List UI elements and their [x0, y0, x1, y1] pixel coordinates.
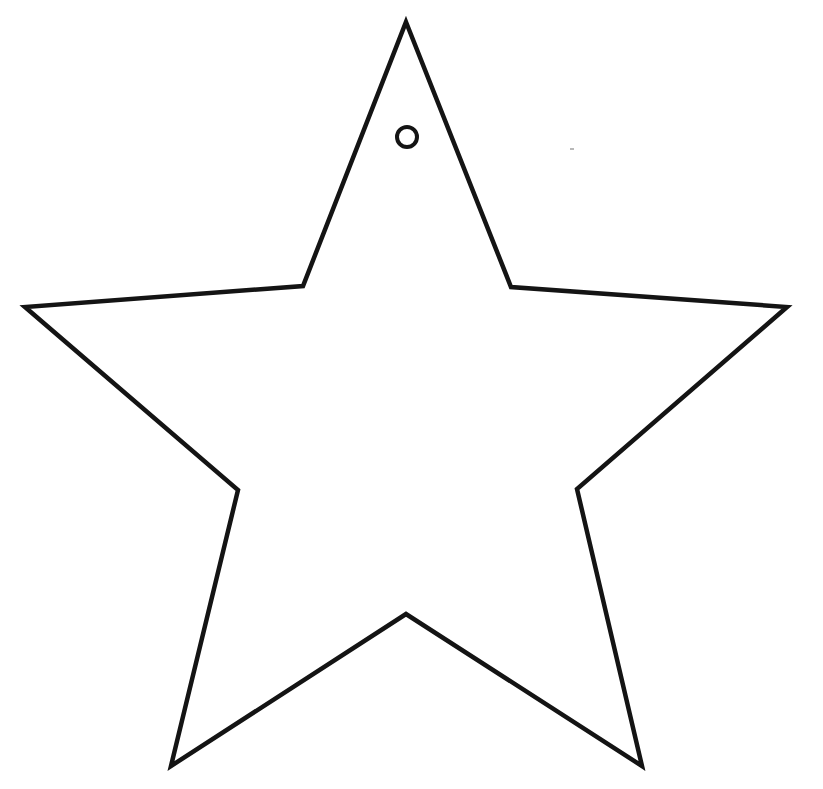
- paper-speck: [570, 148, 574, 150]
- star-drawing: [0, 0, 823, 789]
- hanging-hole-icon: [397, 127, 417, 147]
- star-template-canvas: Star ornament template: [0, 0, 823, 789]
